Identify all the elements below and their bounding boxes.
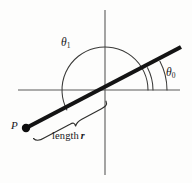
length-label: lengthr: [52, 131, 85, 142]
length-variable: r: [79, 130, 85, 141]
geometry-figure: θ1 θ0 P lengthr: [0, 0, 192, 183]
ray-line: [26, 47, 181, 128]
theta1-label: θ1: [61, 37, 70, 49]
point-p-label: P: [11, 120, 18, 131]
point-p-marker: [22, 124, 30, 132]
figure-canvas: [0, 0, 192, 183]
theta0-subscript: 0: [172, 71, 176, 80]
length-word: length: [52, 130, 79, 141]
theta0-label: θ0: [166, 67, 175, 79]
theta1-subscript: 1: [67, 41, 71, 50]
